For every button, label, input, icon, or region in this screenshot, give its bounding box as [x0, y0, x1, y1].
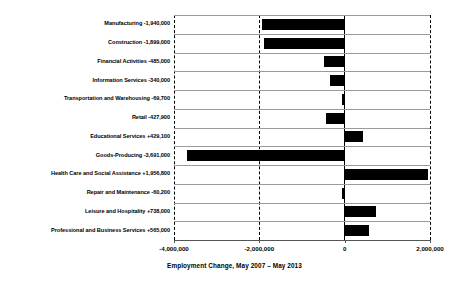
category-label: Manufacturing -1,940,000 — [0, 21, 170, 27]
category-label: Information Services -340,000 — [0, 78, 170, 84]
category-label-column: Manufacturing -1,940,000Construction -1,… — [0, 15, 170, 240]
category-label: Professional and Business Services +565,… — [0, 228, 170, 234]
row-separator — [174, 128, 430, 129]
row-separator — [174, 184, 430, 185]
row-separator — [174, 34, 430, 35]
bar — [330, 75, 345, 86]
x-axis-tick — [174, 240, 175, 243]
row-separator — [174, 90, 430, 91]
category-label: Educational Services +429,100 — [0, 134, 170, 140]
bar — [342, 94, 345, 105]
x-axis-tick-label: -4,000,000 — [159, 245, 189, 252]
x-axis-tick-label: 0 — [343, 245, 346, 252]
x-axis-title: Employment Change, May 2007 – May 2013 — [0, 262, 469, 269]
category-label: Health Care and Social Assistance +1,956… — [0, 171, 170, 177]
category-label: Financial Activities -485,000 — [0, 59, 170, 65]
gridline-vertical — [430, 15, 431, 240]
x-axis-tick — [345, 240, 346, 243]
bar — [264, 38, 345, 49]
x-axis-tick-label: -2,000,000 — [245, 245, 275, 252]
category-label: Goods-Producing -3,691,000 — [0, 153, 170, 159]
row-separator — [174, 71, 430, 72]
bar — [345, 131, 363, 142]
bar — [326, 113, 344, 124]
category-label: Construction -1,899,000 — [0, 40, 170, 46]
row-separator — [174, 109, 430, 110]
x-axis-tick — [259, 240, 260, 243]
row-separator — [174, 203, 430, 204]
plot-area — [174, 15, 430, 240]
bar — [345, 206, 376, 217]
category-label: Leisure and Hospitality +738,000 — [0, 209, 170, 215]
bar — [324, 56, 345, 67]
bar — [342, 188, 345, 199]
bar — [187, 150, 344, 161]
row-separator — [174, 15, 430, 16]
category-label: Transportation and Warehousing -69,700 — [0, 96, 170, 102]
bar — [345, 169, 428, 180]
row-separator — [174, 146, 430, 147]
row-separator — [174, 165, 430, 166]
bar — [345, 225, 369, 236]
x-axis-tick — [430, 240, 431, 243]
category-label: Repair and Maintenance -60,200 — [0, 190, 170, 196]
row-separator — [174, 221, 430, 222]
bar-chart: Manufacturing -1,940,000Construction -1,… — [0, 0, 469, 281]
bar — [262, 19, 345, 30]
x-axis-line — [174, 240, 430, 241]
row-separator — [174, 53, 430, 54]
category-label: Retail -427,900 — [0, 115, 170, 121]
x-axis-tick-label: 2,000,000 — [416, 245, 444, 252]
